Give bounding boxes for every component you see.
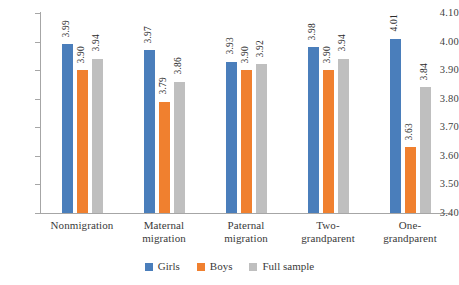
bar-chart: 4.104.003.903.803.703.603.503.40 3.993.9…	[0, 0, 459, 285]
bar-value-label: 3.93	[226, 37, 236, 54]
bar-value-label: 3.90	[323, 46, 333, 63]
bar-value-label: 3.90	[77, 46, 87, 63]
bar-group: 3.983.903.94	[287, 13, 369, 213]
legend-swatch-icon	[197, 263, 205, 271]
bar-slot: 3.93	[226, 13, 237, 213]
bar-value-label: 3.94	[92, 34, 102, 51]
bar-slot: 3.90	[241, 13, 252, 213]
bar-boys[interactable]	[323, 70, 334, 213]
bar-slot: 3.90	[323, 13, 334, 213]
legend-item-full-sample[interactable]: Full sample	[249, 261, 314, 272]
bar-slot: 3.79	[159, 13, 170, 213]
bar-group: 3.933.903.92	[205, 13, 287, 213]
bar-value-label: 3.94	[338, 34, 348, 51]
bar-group: 3.973.793.86	[123, 13, 205, 213]
legend-swatch-icon	[145, 263, 153, 271]
bar-girls[interactable]	[144, 50, 155, 213]
bar-value-label: 3.99	[62, 20, 72, 37]
bar-slot: 3.99	[62, 13, 73, 213]
bar-slot: 3.84	[420, 13, 431, 213]
bar-slot: 3.63	[405, 13, 416, 213]
bar-slot: 3.86	[174, 13, 185, 213]
bar-boys[interactable]	[405, 147, 416, 213]
bar-slot: 3.98	[308, 13, 319, 213]
x-axis-category-label: Paternalmigration	[205, 219, 287, 245]
bar-slot: 3.97	[144, 13, 155, 213]
bar-value-label: 3.63	[405, 123, 415, 140]
x-axis-category-label: One-grandparent	[369, 219, 451, 245]
bar-full-sample[interactable]	[338, 59, 349, 213]
bar-value-label: 3.86	[174, 57, 184, 74]
x-axis-category-label: Two-grandparent	[287, 219, 369, 245]
bar-value-label: 3.98	[308, 23, 318, 40]
bar-girls[interactable]	[308, 47, 319, 213]
legend-item-girls[interactable]: Girls	[145, 261, 180, 272]
bar-full-sample[interactable]	[256, 64, 267, 213]
bar-slot: 3.94	[338, 13, 349, 213]
bar-value-label: 3.97	[144, 26, 154, 43]
legend-swatch-icon	[249, 263, 257, 271]
bar-boys[interactable]	[77, 70, 88, 213]
chart-legend: GirlsBoysFull sample	[0, 261, 459, 272]
bar-slot: 4.01	[390, 13, 401, 213]
bar-group: 3.993.903.94	[41, 13, 123, 213]
legend-label: Full sample	[262, 261, 314, 272]
plot-area: 3.993.903.943.973.793.863.933.903.923.98…	[41, 13, 451, 213]
bar-girls[interactable]	[62, 44, 73, 213]
bar-girls[interactable]	[226, 62, 237, 213]
y-axis-tick	[35, 213, 41, 214]
bar-full-sample[interactable]	[92, 59, 103, 213]
bar-value-label: 3.79	[159, 77, 169, 94]
x-axis-line	[41, 213, 451, 214]
legend-item-boys[interactable]: Boys	[197, 261, 233, 272]
x-axis-category-label: Maternalmigration	[123, 219, 205, 245]
bar-value-label: 3.92	[256, 40, 266, 57]
legend-label: Boys	[210, 261, 233, 272]
bar-full-sample[interactable]	[420, 87, 431, 213]
legend-label: Girls	[158, 261, 180, 272]
bar-girls[interactable]	[390, 39, 401, 213]
bar-slot: 3.92	[256, 13, 267, 213]
bar-value-label: 3.90	[241, 46, 251, 63]
bar-slot: 3.90	[77, 13, 88, 213]
bar-slot: 3.94	[92, 13, 103, 213]
bar-boys[interactable]	[241, 70, 252, 213]
bar-value-label: 3.84	[420, 63, 430, 80]
bar-full-sample[interactable]	[174, 82, 185, 213]
bar-boys[interactable]	[159, 102, 170, 213]
x-axis-category-label: Nonmigration	[41, 219, 123, 232]
bar-group: 4.013.633.84	[369, 13, 451, 213]
bar-value-label: 4.01	[390, 14, 400, 31]
